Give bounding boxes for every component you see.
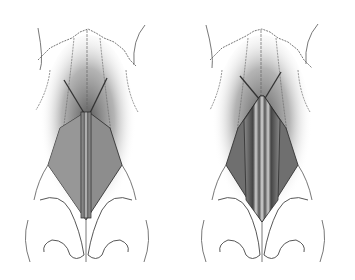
midline-graft — [81, 112, 91, 218]
illustration-stage — [0, 0, 355, 280]
left-panel — [25, 25, 148, 262]
nasal-illustration — [0, 0, 355, 280]
right-panel — [201, 24, 324, 262]
spreader-grafts — [244, 96, 280, 222]
